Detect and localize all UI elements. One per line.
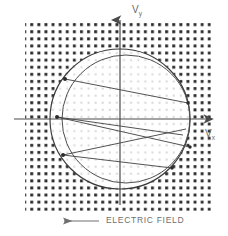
vy-axis-label: Vy bbox=[132, 5, 142, 18]
vy-axis-label-subscript: y bbox=[139, 10, 142, 17]
marker-upper-left bbox=[63, 77, 67, 81]
marker-mid-left bbox=[55, 115, 59, 119]
vy-axis-label-text: V bbox=[132, 4, 139, 15]
marker-lower-left bbox=[61, 153, 65, 157]
vx-axis-label: Vx bbox=[205, 129, 215, 142]
marker-right-lower bbox=[170, 166, 173, 169]
electric-field-label: ELECTRIC FIELD bbox=[106, 216, 184, 225]
vx-axis-label-text: V bbox=[205, 128, 212, 139]
velocity-space-diagram bbox=[0, 0, 228, 236]
marker-right-mid bbox=[188, 145, 191, 148]
vx-axis-label-subscript: x bbox=[212, 134, 215, 141]
figure-canvas: Vy Vx ELECTRIC FIELD bbox=[0, 0, 228, 236]
marker-right-upper bbox=[186, 101, 189, 104]
